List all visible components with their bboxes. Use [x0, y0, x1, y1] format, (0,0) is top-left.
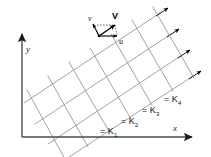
svg-text:= K: = K — [164, 94, 178, 104]
k-label-2: = K 2 — [121, 116, 139, 128]
svg-text:= K: = K — [121, 116, 135, 126]
svg-text:2: 2 — [135, 122, 139, 128]
svg-text:= K: = K — [100, 126, 114, 136]
vector-u-label: u — [119, 37, 123, 46]
vector-V-label: V — [112, 11, 118, 21]
vector-origin-node — [98, 35, 101, 38]
y-axis-label: y — [25, 44, 30, 54]
k-label-3: = K 3 — [142, 105, 160, 117]
svg-text:= K: = K — [142, 105, 156, 115]
svg-text:4: 4 — [178, 100, 182, 106]
x-axis-label: x — [172, 123, 177, 133]
vector-v-label: v — [88, 14, 92, 23]
vector-V-arrow — [99, 25, 115, 36]
k-label-1: = K 1 — [100, 126, 118, 138]
k-label-4: = K 4 — [164, 94, 182, 106]
k-curve-arrowheads — [156, 8, 201, 79]
vector-decomposition — [93, 24, 117, 37]
diagram-svg: y x v V u = K 1 = K 2 — [0, 0, 211, 157]
figure-container: y x v V u = K 1 = K 2 — [0, 0, 211, 157]
vector-v-arrow — [93, 24, 99, 36]
axes-group — [22, 34, 192, 137]
svg-text:3: 3 — [156, 111, 160, 117]
